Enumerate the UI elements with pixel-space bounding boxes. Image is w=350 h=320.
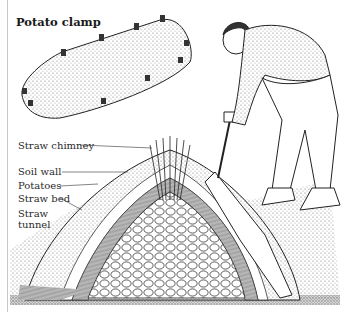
label-straw-bed: Straw bed — [18, 193, 70, 204]
clamp-top-view — [22, 15, 191, 118]
label-straw-chimney: Straw chimney — [18, 140, 94, 151]
label-straw-tunnel-line2: tunnel — [18, 219, 50, 230]
label-soil-wall: Soil wall — [18, 166, 61, 177]
clamp-illustration — [0, 0, 350, 320]
illustration-frame: Potato clamp Straw chimney Soil wall Pot… — [0, 0, 350, 320]
man-figure — [223, 23, 340, 210]
label-straw-tunnel-line1: Straw — [18, 208, 48, 219]
label-potatoes: Potatoes — [18, 180, 61, 191]
figure-title: Potato clamp — [16, 15, 101, 29]
